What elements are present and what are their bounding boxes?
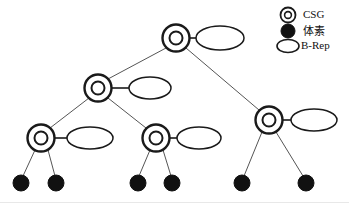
voxel-leaf-node <box>298 175 314 191</box>
csg-node-inner-circle <box>92 82 105 95</box>
tree-edge <box>50 98 89 128</box>
brep-node <box>177 127 221 149</box>
legend-label-legend-brep: B-Rep <box>301 39 330 51</box>
tree-edge <box>163 150 171 176</box>
tree-edge <box>48 150 55 176</box>
csg-node-inner-circle <box>150 132 163 145</box>
csg-node-inner-circle <box>35 132 48 145</box>
tree-edge <box>276 132 303 176</box>
tree-edge <box>139 150 150 176</box>
csg-node-inner-circle <box>263 114 276 127</box>
voxel-node-icon <box>281 24 295 38</box>
legend-label-legend-voxel: 体素 <box>303 24 325 38</box>
brep-node-icon <box>277 40 299 53</box>
tree-diagram-svg: CSG体素B-Rep <box>0 0 349 203</box>
tree-edge <box>186 48 259 110</box>
voxel-leaf-layer <box>13 175 314 191</box>
legend: CSG体素B-Rep <box>277 8 330 53</box>
voxel-leaf-node <box>48 175 64 191</box>
tree-edge <box>244 132 262 176</box>
voxel-leaf-node <box>130 175 146 191</box>
csg-node-icon-inner <box>285 12 292 19</box>
tree-edge <box>23 150 35 176</box>
voxel-leaf-node <box>234 175 250 191</box>
legend-label-legend-csg: CSG <box>303 8 324 20</box>
brep-node <box>291 109 337 131</box>
voxel-leaf-node <box>13 175 29 191</box>
tree-edge <box>108 48 166 79</box>
diagram-canvas: CSG体素B-Rep <box>0 0 349 203</box>
brep-node <box>129 77 171 99</box>
tree-edge <box>108 98 146 128</box>
voxel-leaf-node <box>164 175 180 191</box>
brep-node <box>196 26 244 50</box>
brep-node <box>67 127 113 149</box>
csg-node-inner-circle <box>170 32 183 45</box>
